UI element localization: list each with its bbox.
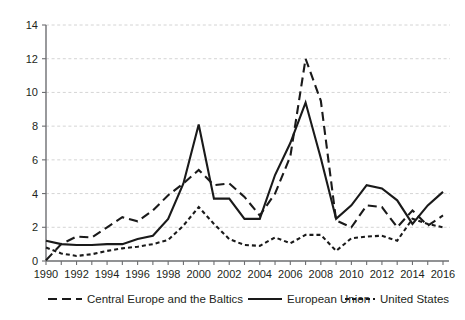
y-tick-labels-group: 02468101214 [26, 19, 38, 267]
y-tick-label-10: 10 [26, 86, 38, 98]
x-axis-group [46, 261, 449, 265]
series-line-0 [46, 59, 443, 260]
x-tick-label-2002: 2002 [217, 268, 241, 280]
x-tick-label-1998: 1998 [156, 268, 180, 280]
gridlines-group [46, 25, 450, 227]
x-tick-label-2000: 2000 [186, 268, 210, 280]
legend-label-0: Central Europe and the Baltics [87, 293, 243, 305]
y-tick-label-2: 2 [32, 221, 38, 233]
x-tick-labels-group: 1990199219941996199820002002200420062008… [34, 268, 455, 280]
series-group [46, 59, 443, 260]
y-tick-label-0: 0 [32, 255, 38, 267]
x-tick-label-2010: 2010 [339, 268, 363, 280]
x-tick-label-1996: 1996 [125, 268, 149, 280]
x-tick-label-2012: 2012 [370, 268, 394, 280]
y-tick-label-12: 12 [26, 53, 38, 65]
y-tick-label-8: 8 [32, 120, 38, 132]
x-tick-label-2016: 2016 [431, 268, 455, 280]
x-tick-label-2014: 2014 [400, 268, 424, 280]
x-tick-label-2006: 2006 [278, 268, 302, 280]
x-tick-label-2004: 2004 [248, 268, 272, 280]
legend-label-2: United States [380, 293, 449, 305]
legend-label-1: European Union [287, 293, 370, 305]
x-tick-label-1990: 1990 [34, 268, 58, 280]
x-tick-label-2008: 2008 [309, 268, 333, 280]
chart-container: 02468101214 1990199219941996199820002002… [0, 0, 465, 320]
y-axis-group [42, 25, 46, 261]
series-line-2 [46, 207, 443, 256]
y-tick-label-6: 6 [32, 154, 38, 166]
line-chart: 02468101214 1990199219941996199820002002… [0, 0, 465, 320]
y-tick-label-14: 14 [26, 19, 38, 31]
chart-legend: Central Europe and the BalticsEuropean U… [48, 293, 449, 305]
x-tick-label-1992: 1992 [64, 268, 88, 280]
y-tick-label-4: 4 [32, 188, 38, 200]
x-tick-label-1994: 1994 [95, 268, 119, 280]
series-line-1 [46, 103, 443, 245]
